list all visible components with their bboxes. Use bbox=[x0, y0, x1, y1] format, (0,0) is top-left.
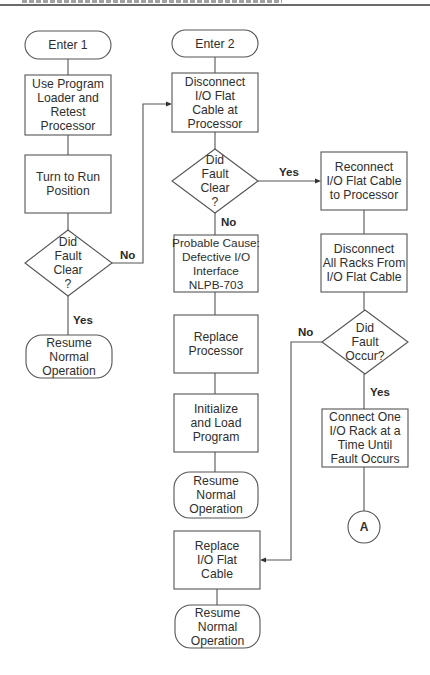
did-fault-occur-label: Did Fault Occur? bbox=[322, 311, 408, 373]
edge-label-yes-right: Yes bbox=[370, 386, 390, 398]
did-fault-clear-1-label: Did Fault Clear ? bbox=[25, 231, 111, 295]
resume-1-label: Resume Normal Operation bbox=[26, 335, 112, 378]
replace-processor-label: Replace Processor bbox=[174, 315, 258, 373]
edge-label-no-middle: No bbox=[221, 216, 236, 228]
edge-label-yes-middle: Yes bbox=[279, 166, 299, 178]
connector-a-label: A bbox=[348, 511, 380, 543]
disconnect-io-cable-label: Disconnect I/O Flat Cable at Processor bbox=[172, 73, 258, 132]
connect-one-rack-label: Connect One I/O Rack at a Time Until Fau… bbox=[322, 409, 408, 467]
resume-3-label: Resume Normal Operation bbox=[175, 605, 260, 648]
use-program-loader-label: Use Program Loader and Retest Processor bbox=[25, 75, 111, 135]
reconnect-io-cable-label: Reconnect I/O Flat Cable to Processor bbox=[321, 152, 407, 210]
edge-label-yes-left: Yes bbox=[73, 314, 93, 326]
resume-2-label: Resume Normal Operation bbox=[174, 472, 258, 518]
edge-label-no-right: No bbox=[298, 326, 313, 338]
disconnect-all-racks-label: Disconnect All Racks From I/O Flat Cable bbox=[320, 234, 408, 292]
enter2-label: Enter 2 bbox=[172, 30, 258, 57]
enter1-label: Enter 1 bbox=[25, 31, 111, 59]
did-fault-clear-2-label: Did Fault Clear ? bbox=[172, 150, 258, 212]
replace-io-cable-label: Replace I/O Flat Cable bbox=[174, 531, 260, 589]
turn-to-run-label: Turn to Run Position bbox=[25, 155, 111, 213]
probable-cause-label: Probable Cause: Defective I/O Interface … bbox=[172, 235, 260, 292]
edge-label-no-left: No bbox=[120, 249, 135, 261]
initialize-load-label: Initialize and Load Program bbox=[174, 394, 258, 452]
